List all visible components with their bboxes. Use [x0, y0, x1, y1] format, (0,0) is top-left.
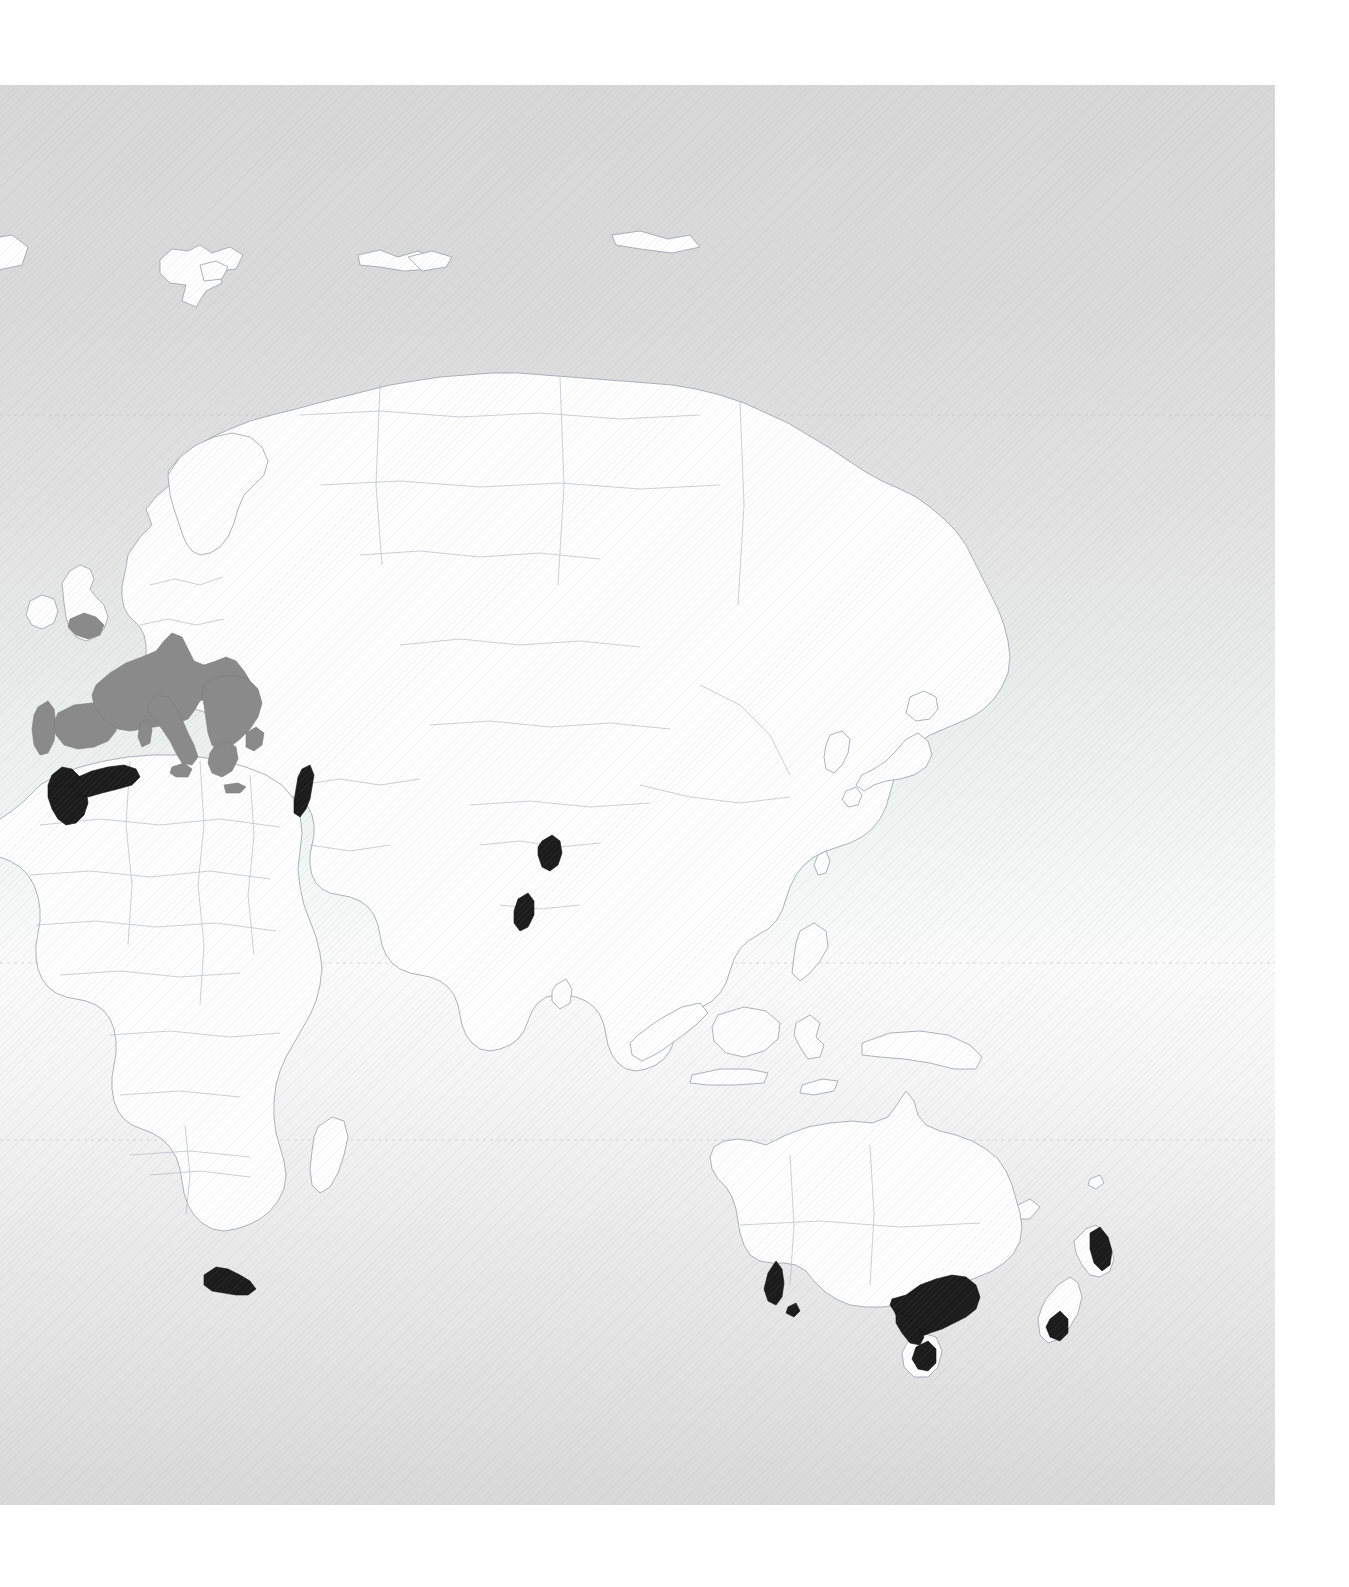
world-map-figure [0, 85, 1275, 1505]
landmass-sulawesi [794, 1015, 824, 1059]
landmass-iceland [0, 235, 28, 271]
landmass-svalbard [160, 245, 243, 307]
region-portugal [32, 701, 56, 755]
region-sardinia [138, 719, 152, 747]
region-sw-australia [764, 1261, 784, 1305]
region-sw-australia-islet [786, 1303, 800, 1317]
world-map-svg [0, 85, 1275, 1505]
landmass-severnaya-zemlya [612, 231, 700, 253]
landmass-timor [800, 1079, 838, 1095]
landmass-fiji [1088, 1175, 1104, 1189]
landmass-ireland [26, 595, 58, 629]
landmass-borneo [712, 1007, 780, 1057]
region-western-cape [204, 1267, 256, 1295]
landmass-java [690, 1069, 768, 1085]
landmass-new-guinea [862, 1031, 982, 1069]
landmass-madagascar [310, 1117, 348, 1193]
landmass-australia [710, 1091, 1022, 1307]
landmass-philippines [792, 923, 828, 981]
